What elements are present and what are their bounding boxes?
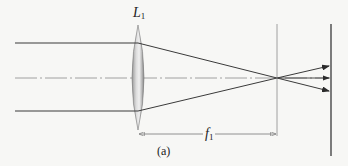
incoming-rays bbox=[15, 43, 138, 111]
lens-label: L1 bbox=[133, 5, 145, 21]
diagram-canvas: L1 f1 (a) bbox=[0, 0, 348, 166]
lens-l1 bbox=[132, 25, 144, 130]
lens-ray-diagram bbox=[0, 0, 348, 166]
focal-length-label: f1 bbox=[203, 126, 215, 142]
refracted-rays bbox=[138, 43, 329, 111]
figure-caption: (a) bbox=[157, 144, 170, 159]
